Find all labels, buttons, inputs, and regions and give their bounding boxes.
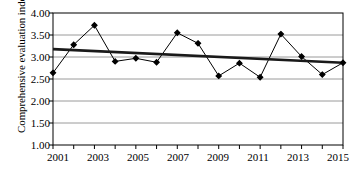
- y-axis-tick-marks: [49, 13, 53, 145]
- chart-container: Comprehensive evaluation index 4.00 3.50…: [0, 0, 349, 173]
- x-axis-tick-marks: [53, 145, 343, 149]
- plot-area: [0, 0, 349, 173]
